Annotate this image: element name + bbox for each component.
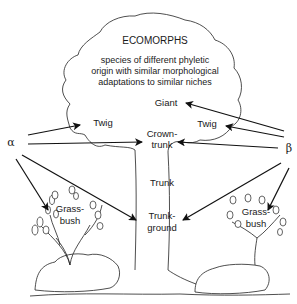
description-line-2: origin with similar morphological [85,66,225,77]
description-line-3: adaptations to similar niches [85,77,225,88]
arrow-beta-twig [226,126,284,137]
niche-trunk: Trunk [142,177,182,188]
arrow-alpha-crowntrunk [28,142,142,144]
niche-trunk-ground-1: Trunk- [140,210,184,221]
species-alpha: α [4,137,18,148]
niche-crown-trunk-2: trunk [142,139,182,150]
niche-trunk-ground-2: ground [140,222,184,233]
niche-crown-trunk-1: Crown- [142,128,182,139]
arrow-beta-crowntrunk [178,142,278,148]
niche-grassbush-right-1: Grass- [236,206,276,217]
species-beta: β [282,143,296,154]
niche-giant: Giant [148,97,184,108]
niche-twig-right: Twig [192,118,222,129]
niche-grassbush-left-2: bush [50,215,90,226]
niche-twig-left: Twig [88,117,118,128]
niche-grassbush-right-2: bush [236,218,276,229]
description-line-1: species of different phyletic [85,55,225,66]
niche-grassbush-left-1: Grass- [50,203,90,214]
left-rock [35,254,120,292]
diagram-title: ECOMORPHS [110,35,200,46]
arrow-beta-grassbush [268,168,289,210]
arrow-alpha-twig [28,125,80,135]
right-rock [195,264,269,293]
ground-line [30,294,290,296]
